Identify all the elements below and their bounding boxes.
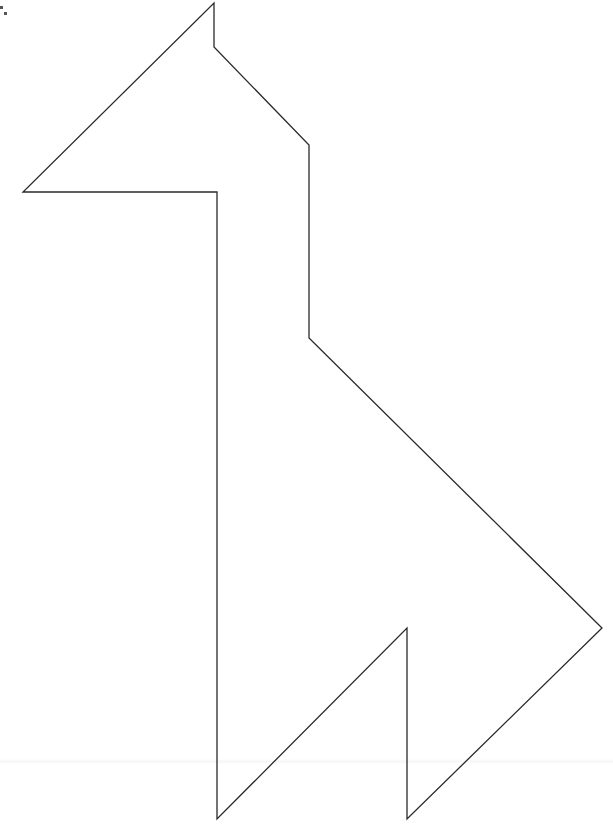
tangram-canvas <box>0 0 613 829</box>
corner-mark-dot <box>4 12 7 15</box>
giraffe-outline-svg <box>0 0 613 829</box>
corner-mark-dot <box>0 6 3 9</box>
